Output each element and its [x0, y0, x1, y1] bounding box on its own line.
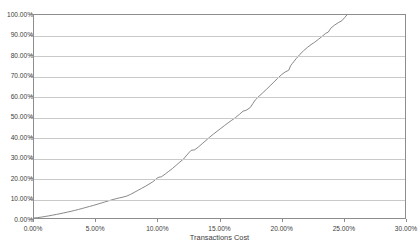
gridline-horizontal — [34, 138, 405, 139]
chart-title — [0, 0, 419, 4]
series-cumulative-distribution — [34, 15, 405, 218]
gridline-horizontal — [34, 56, 405, 57]
chart-container: 0.00%10.00%20.00%30.00%40.00%50.00%60.00… — [0, 0, 419, 246]
x-tick-mark — [282, 219, 283, 222]
x-tick-label: 5.00% — [71, 225, 119, 233]
x-tick-mark — [344, 219, 345, 222]
x-tick-label: 0.00% — [9, 225, 57, 233]
plot-area — [33, 14, 406, 219]
series-line — [34, 15, 347, 218]
x-axis-title: Transactions Cost — [33, 233, 406, 242]
gridline-horizontal — [34, 77, 405, 78]
gridline-horizontal — [34, 118, 405, 119]
x-tick-label: 20.00% — [258, 225, 306, 233]
gridline-horizontal — [34, 97, 405, 98]
gridline-horizontal — [34, 36, 405, 37]
x-tick-label: 10.00% — [133, 225, 181, 233]
x-tick-mark — [406, 219, 407, 222]
y-axis: 0.00%10.00%20.00%30.00%40.00%50.00%60.00… — [0, 0, 33, 246]
gridline-horizontal — [34, 179, 405, 180]
x-tick-mark — [33, 219, 34, 222]
x-tick-mark — [95, 219, 96, 222]
gridline-horizontal — [34, 159, 405, 160]
x-tick-mark — [220, 219, 221, 222]
x-tick-label: 30.00% — [382, 225, 419, 233]
gridline-horizontal — [34, 200, 405, 201]
x-tick-label: 15.00% — [196, 225, 244, 233]
x-tick-label: 25.00% — [320, 225, 368, 233]
x-tick-mark — [157, 219, 158, 222]
